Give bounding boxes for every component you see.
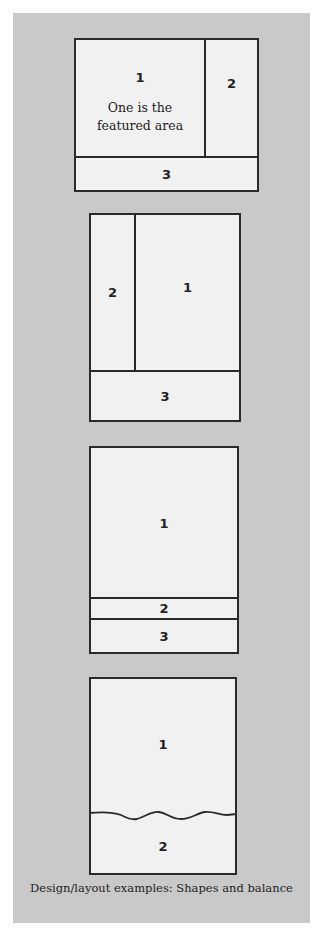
layout-a: 1 One is the featured area 2 3 xyxy=(74,38,259,192)
layout-c-region-2: 2 xyxy=(91,599,237,618)
featured-note: One is the featured area xyxy=(95,99,185,135)
region-label: 1 xyxy=(158,737,167,752)
region-label: 2 xyxy=(108,285,117,300)
layout-b-region-2: 2 xyxy=(91,215,134,370)
region-label: 1 xyxy=(183,280,192,295)
region-label: 1 xyxy=(159,516,168,531)
layout-b-region-3: 3 xyxy=(91,372,239,420)
figure-caption: Design/layout examples: Shapes and balan… xyxy=(13,881,310,895)
layout-a-region-2: 2 xyxy=(206,40,257,126)
layout-d-region-1: 1 xyxy=(91,679,235,809)
layout-d: 1 2 xyxy=(89,677,237,875)
layout-b-region-1: 1 xyxy=(136,215,239,360)
region-label: 3 xyxy=(162,167,171,182)
region-label: 3 xyxy=(160,389,169,404)
region-label: 2 xyxy=(227,76,236,91)
region-label: 1 xyxy=(135,70,144,85)
layout-c-region-1: 1 xyxy=(91,448,237,598)
layout-c-region-3: 3 xyxy=(91,620,237,652)
region-label: 2 xyxy=(158,839,167,854)
layout-a-region-1: 1 One is the featured area xyxy=(76,40,204,156)
layout-c: 1 2 3 xyxy=(89,446,239,654)
region-label: 3 xyxy=(159,629,168,644)
layout-d-region-2: 2 xyxy=(91,819,235,873)
layout-a-region-3: 3 xyxy=(76,158,257,190)
region-label: 2 xyxy=(159,601,168,616)
layout-b: 2 1 3 xyxy=(89,213,241,422)
